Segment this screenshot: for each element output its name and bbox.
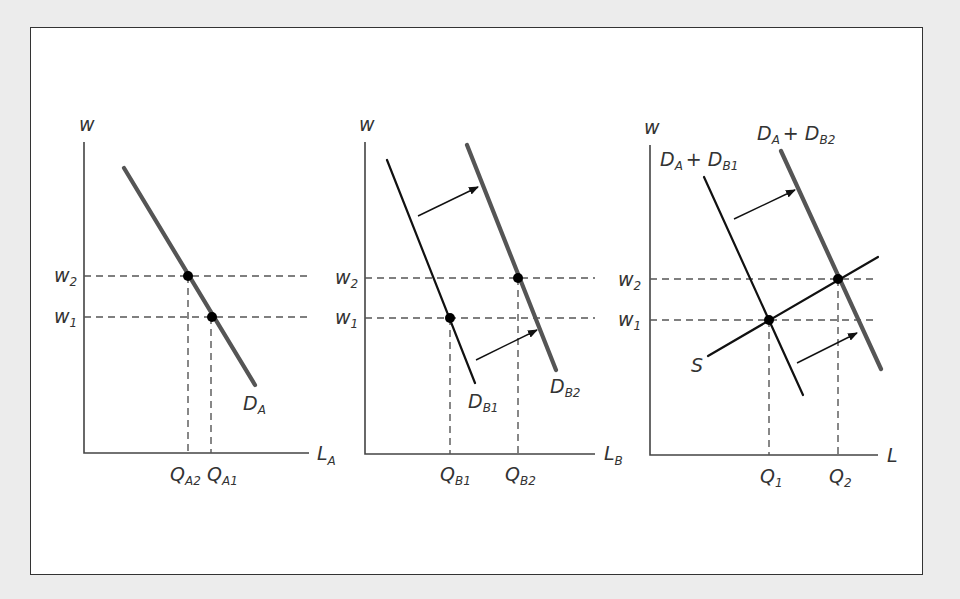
quantity-label-qb2: QB2 (505, 463, 536, 488)
shift-arrow-icon (418, 187, 478, 216)
equilibrium-point-qb1 (445, 313, 455, 323)
quantity-label-q1: Q1 (760, 465, 783, 490)
equilibrium-point-w2 (183, 271, 193, 281)
y-axis-label: w (644, 116, 660, 138)
x-axis-label: LB (604, 442, 623, 468)
y-axis-label: w (79, 113, 95, 135)
curve-label-s: S (691, 354, 703, 376)
panel-market-b: w LB w2 w1 QB1 QB2 DB1 DB2 (335, 113, 623, 488)
equilibrium-point-q1 (764, 315, 774, 325)
wage-label-w1: w1 (618, 308, 641, 333)
quantity-label-qa2: QA2 (170, 463, 201, 488)
quantity-label-q2: Q2 (829, 465, 852, 490)
demand-curve-db1 (387, 160, 475, 383)
curve-label-db2: DB2 (550, 375, 581, 400)
curve-label-da-db1: DA+ DB1 (660, 148, 738, 173)
equilibrium-point-qb2 (513, 273, 523, 283)
curve-label-da: DA (243, 392, 266, 417)
demand-curve-db2 (467, 145, 556, 370)
shift-arrow-icon (734, 190, 795, 219)
axes (650, 145, 878, 455)
shift-arrow-icon (797, 333, 857, 363)
axes (84, 142, 309, 453)
shift-arrow-icon (476, 330, 537, 360)
quantity-label-qa1: QA1 (207, 463, 238, 488)
x-axis-label: LA (317, 442, 336, 468)
y-axis-label: w (359, 113, 375, 135)
wage-label-w2: w2 (54, 264, 77, 289)
panel-aggregate-market: w L w2 w1 Q1 Q2 DA+ DB1 DA+ DB2 S (618, 116, 898, 490)
demand-curve-da-db2 (781, 151, 881, 369)
curve-label-da-db2: DA+ DB2 (757, 122, 835, 147)
wage-label-w1: w1 (54, 305, 77, 330)
figure-stage: w LA w2 w1 QA2 QA1 DA w LB w2 w1 (0, 0, 960, 599)
equilibrium-point-q2 (833, 274, 843, 284)
quantity-label-qb1: QB1 (440, 463, 471, 488)
wage-label-w2: w2 (335, 266, 358, 291)
curve-label-db1: DB1 (468, 390, 499, 415)
wage-label-w2: w2 (618, 268, 641, 293)
labor-market-diagram: w LA w2 w1 QA2 QA1 DA w LB w2 w1 (0, 0, 960, 599)
panel-market-a: w LA w2 w1 QA2 QA1 DA (54, 113, 336, 488)
equilibrium-point-w1 (207, 312, 217, 322)
wage-label-w1: w1 (335, 306, 358, 331)
x-axis-label: L (887, 444, 898, 466)
